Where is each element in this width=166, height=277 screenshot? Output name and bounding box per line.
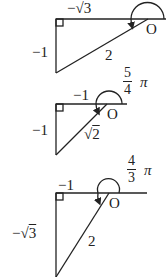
t2-top-label: −1 bbox=[73, 88, 89, 103]
triangle-3-shape bbox=[56, 179, 147, 277]
t2-angle-fraction: 5 4 bbox=[123, 66, 132, 97]
t3-origin-label: O bbox=[109, 196, 120, 211]
t3-angle-pi: π bbox=[144, 162, 152, 179]
t2-angle-num: 5 bbox=[123, 66, 132, 82]
t2-angle-den: 4 bbox=[123, 82, 132, 97]
t3-top-label: −1 bbox=[58, 178, 74, 193]
t1-origin-label: O bbox=[146, 22, 157, 37]
t2-left-label: −1 bbox=[32, 123, 48, 138]
triangle-2-shape bbox=[56, 91, 127, 155]
t2-origin-label: O bbox=[107, 107, 118, 122]
t3-left-label: −√3 bbox=[12, 226, 36, 241]
t1-left-label: −1 bbox=[32, 45, 48, 60]
t2-hyp-value: 2 bbox=[92, 126, 100, 142]
t3-hyp-label: 2 bbox=[88, 234, 96, 249]
t1-hyp-label: 2 bbox=[105, 48, 113, 63]
t3-angle-num: 4 bbox=[127, 154, 136, 170]
t3-angle-fraction: 4 3 bbox=[127, 154, 136, 185]
t3-left-value: 3 bbox=[29, 225, 37, 241]
sqrt-symbol: √ bbox=[20, 225, 28, 241]
t2-angle-pi: π bbox=[140, 74, 148, 91]
t2-hyp-label: √2 bbox=[84, 127, 100, 142]
t3-angle-den: 3 bbox=[127, 170, 136, 185]
t1-top-label: −√3 bbox=[67, 1, 91, 16]
sqrt-symbol: √ bbox=[84, 126, 92, 142]
